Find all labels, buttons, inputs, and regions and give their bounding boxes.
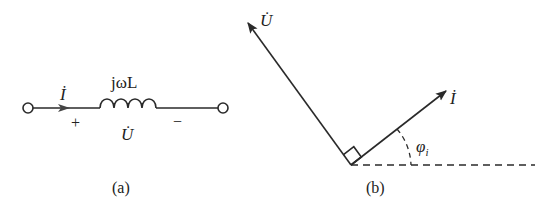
left-terminal bbox=[23, 103, 33, 113]
current-label: İ bbox=[59, 85, 67, 104]
right-angle-marker bbox=[344, 147, 362, 165]
plus-sign: + bbox=[71, 114, 80, 131]
impedance-label: jωL bbox=[110, 73, 137, 92]
caption-b: (b) bbox=[366, 179, 385, 197]
angle-label: φi bbox=[416, 137, 428, 158]
caption-a: (a) bbox=[112, 179, 130, 197]
current-phasor bbox=[351, 91, 446, 165]
right-terminal bbox=[218, 103, 228, 113]
figure-canvas: İ jωL + U̇ − (a) U̇ İ φi (b) bbox=[0, 0, 546, 220]
current-phasor-label: İ bbox=[449, 89, 457, 108]
inductor-coil bbox=[100, 99, 156, 108]
voltage-phasor bbox=[248, 23, 351, 165]
voltage-label: U̇ bbox=[121, 125, 135, 144]
minus-sign: − bbox=[173, 113, 182, 130]
circuit-diagram: İ jωL + U̇ − (a) bbox=[23, 73, 228, 197]
angle-arc bbox=[397, 129, 411, 165]
phasor-diagram: U̇ İ φi (b) bbox=[248, 11, 535, 197]
voltage-phasor-label: U̇ bbox=[260, 11, 274, 30]
